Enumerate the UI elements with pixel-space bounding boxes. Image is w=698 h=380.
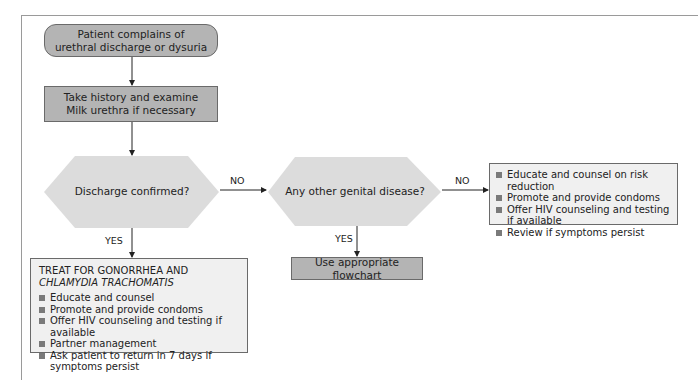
treatment-item: Promote and provide condoms	[39, 304, 239, 316]
bullet-icon	[39, 318, 45, 324]
no-disease-item: Review if symptoms persist	[496, 227, 671, 239]
treatment-item-text: Partner management	[50, 338, 157, 349]
history-line-2: Milk urethra if necessary	[64, 104, 198, 117]
use-flowchart-node: Use appropriate flowchart	[291, 257, 423, 280]
treatment-heading-plain: TREAT FOR GONORRHEA AND	[39, 265, 188, 276]
treatment-item: Partner management	[39, 338, 239, 350]
bullet-icon	[39, 341, 45, 347]
decision-2-yes-label: YES	[335, 233, 353, 244]
treatment-item-text: Promote and provide condoms	[50, 304, 203, 315]
bullet-icon	[496, 230, 502, 236]
treatment-item: Offer HIV counseling and testing if avai…	[39, 315, 239, 338]
history-line-1: Take history and examine	[64, 91, 198, 104]
treatment-item: Ask patient to return in 7 days if sympt…	[39, 350, 239, 373]
bullet-icon	[496, 207, 502, 213]
bullet-icon	[39, 295, 45, 301]
bullet-icon	[496, 195, 502, 201]
treatment-box: TREAT FOR GONORRHEA AND CHLAMYDIA TRACHO…	[30, 258, 248, 353]
bullet-icon	[39, 353, 45, 359]
no-disease-item: Offer HIV counseling and testing if avai…	[496, 204, 671, 227]
treatment-item-text: Educate and counsel	[50, 292, 154, 303]
start-line-2: urethral discharge or dysuria	[55, 41, 207, 54]
no-disease-item-text: Offer HIV counseling and testing if avai…	[507, 204, 669, 227]
treatment-heading: TREAT FOR GONORRHEA AND CHLAMYDIA TRACHO…	[39, 265, 239, 288]
no-disease-item-text: Educate and counsel on risk reduction	[507, 169, 648, 192]
treatment-item-text: Ask patient to return in 7 days if sympt…	[50, 350, 212, 373]
decision-2-label: Any other genital disease?	[285, 180, 425, 202]
treatment-item: Educate and counsel	[39, 292, 239, 304]
start-node: Patient complains of urethral discharge …	[44, 24, 218, 57]
no-disease-item: Educate and counsel on risk reduction	[496, 169, 671, 192]
decision-1-label: Discharge confirmed?	[60, 180, 204, 202]
start-line-1: Patient complains of	[55, 28, 207, 41]
bullet-icon	[39, 307, 45, 313]
decision-2-no-label: NO	[455, 175, 470, 186]
history-exam-node: Take history and examine Milk urethra if…	[44, 86, 218, 122]
no-disease-item-text: Promote and provide condoms	[507, 192, 660, 203]
bullet-icon	[496, 172, 502, 178]
treatment-item-text: Offer HIV counseling and testing if avai…	[50, 315, 222, 338]
no-disease-box: Educate and counsel on risk reduction Pr…	[489, 163, 678, 225]
treatment-heading-italic: CHLAMYDIA TRACHOMATIS	[39, 277, 174, 288]
decision-1-no-label: NO	[230, 175, 245, 186]
no-disease-item-text: Review if symptoms persist	[507, 227, 644, 238]
no-disease-item: Promote and provide condoms	[496, 192, 671, 204]
decision-1-yes-label: YES	[105, 235, 123, 246]
